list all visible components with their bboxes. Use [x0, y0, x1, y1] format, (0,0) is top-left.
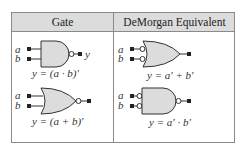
input-b-label: b [15, 52, 21, 64]
output-bubble [69, 52, 74, 57]
nand-gate-icon [41, 41, 69, 67]
nand-equation: y = (a · b)' [31, 67, 79, 80]
input-b-label: b [15, 99, 21, 111]
or-equation: y = a' + b' [146, 69, 194, 81]
gate-diagrams: a b y y = (a · b)' a b y = a' + b' a b [0, 0, 247, 152]
nor-equation: y = (a + b)' [31, 115, 84, 128]
output-y-terminal [78, 52, 82, 56]
nor-gate-diagram: a b y = (a + b)' [15, 88, 91, 128]
input-b-label: b [118, 52, 124, 64]
output-terminal [187, 99, 191, 103]
input-a-bubble [140, 47, 145, 52]
and-inverted-inputs-diagram: a b y = a' · b' [118, 88, 191, 128]
output-terminal [87, 99, 91, 103]
and-equation: y = a' · b' [148, 116, 191, 128]
or-inverted-inputs-diagram: a b y = a' + b' [118, 41, 194, 81]
input-b-label: b [118, 99, 124, 111]
and-gate-icon [142, 88, 176, 114]
output-terminal [187, 52, 191, 56]
nand-gate-diagram: a b y y = (a · b)' [15, 41, 90, 80]
input-a-terminal [27, 47, 31, 51]
input-b-bubble [137, 104, 142, 109]
input-b-bubble [140, 57, 145, 62]
output-bubble [176, 99, 181, 104]
input-a-bubble [137, 94, 142, 99]
output-y-label: y [84, 48, 90, 60]
input-b-terminal [27, 57, 31, 61]
output-bubble [76, 99, 81, 104]
nor-gate-icon [41, 88, 76, 114]
or-gate-icon [143, 41, 180, 67]
